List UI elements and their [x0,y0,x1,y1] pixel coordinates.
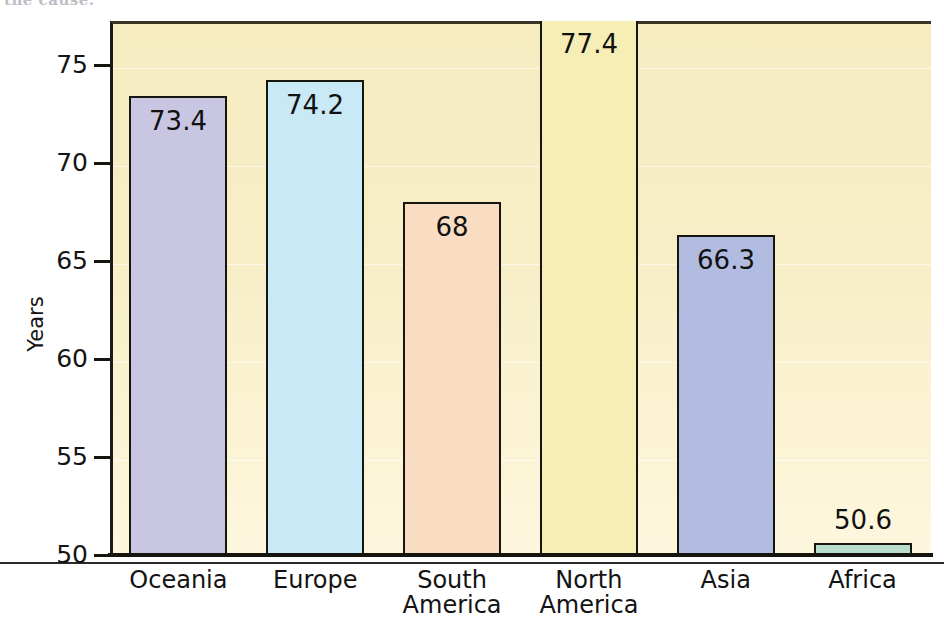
bar-north-america: 77.4 [540,21,638,555]
bar-value-label: 73.4 [131,108,225,134]
bar-value-label: 50.6 [816,507,910,533]
bar-europe: 74.2 [266,80,364,555]
x-axis-label-line: America [509,593,669,618]
gridline [113,166,931,167]
bar-value-label: 77.4 [542,31,636,57]
bar-value-label: 74.2 [268,92,362,118]
gridline [113,460,931,461]
y-axis-tick-label: 70 [24,150,88,175]
bar-chart: 73.474.26877.466.350.6 505560657075 Year… [0,0,944,618]
x-axis-line [108,553,933,557]
gridline [113,68,931,69]
bar-value-label: 66.3 [679,247,773,273]
x-axis-label-line: Africa [783,568,943,593]
y-axis-tick-label: 75 [24,52,88,77]
bar-south-america: 68 [403,202,501,555]
bar-oceania: 73.4 [129,96,227,555]
x-axis-label-africa: Africa [783,568,943,593]
y-axis-tick-label: 55 [24,444,88,469]
y-axis-tick-label: 50 [24,542,88,567]
y-axis-tick [94,456,110,459]
plot-area [110,21,931,555]
y-axis-title: Years [24,264,48,384]
y-axis-tick [94,260,110,263]
y-axis-tick [94,64,110,67]
bar-value-label: 68 [405,214,499,240]
gridline [113,264,931,265]
y-axis-tick [94,554,110,557]
x-axis-baseline [0,562,944,564]
bar-asia: 66.3 [677,235,775,555]
gridline [113,362,931,363]
y-axis-tick [94,358,110,361]
y-axis-tick [94,162,110,165]
